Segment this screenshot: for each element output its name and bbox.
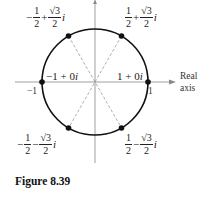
point-marker bbox=[145, 79, 151, 85]
point-marker bbox=[66, 125, 72, 131]
label-point-bottom-left: −12−√32i bbox=[16, 133, 57, 156]
numerator: √3 bbox=[140, 133, 153, 145]
point-marker bbox=[39, 79, 45, 85]
denominator: 2 bbox=[33, 18, 40, 29]
denominator: 2 bbox=[24, 145, 31, 156]
denominator: 2 bbox=[140, 18, 153, 29]
operator: − bbox=[32, 139, 38, 150]
axis-label-axis: axis bbox=[180, 83, 195, 93]
sign: − bbox=[17, 139, 23, 150]
fraction: √32 bbox=[140, 133, 153, 156]
point-marker bbox=[119, 125, 125, 131]
fraction: √32 bbox=[39, 133, 52, 156]
fraction: √32 bbox=[48, 6, 61, 29]
numerator: 1 bbox=[33, 6, 40, 18]
operator: + bbox=[133, 12, 139, 23]
label-point-top-left: −12+√32i bbox=[25, 6, 66, 29]
denominator: 2 bbox=[125, 145, 132, 156]
label-point-bottom-right: 12−√32i bbox=[123, 133, 158, 156]
point-marker bbox=[66, 33, 72, 39]
label-pos-one: 1 + 0i bbox=[117, 71, 143, 82]
fraction: 12 bbox=[33, 6, 40, 29]
imaginary-unit: i bbox=[154, 12, 157, 23]
arrow-right-icon bbox=[169, 80, 176, 85]
imaginary-unit: i bbox=[62, 12, 65, 23]
denominator: 2 bbox=[140, 145, 153, 156]
denominator: 2 bbox=[48, 18, 61, 29]
numerator: 1 bbox=[24, 133, 31, 145]
tick-label-neg-one: −1 bbox=[27, 86, 37, 96]
numerator: √3 bbox=[48, 6, 61, 18]
sign: − bbox=[26, 12, 32, 23]
unit-circle-diagram bbox=[0, 0, 208, 204]
imaginary-unit: i bbox=[140, 70, 143, 82]
arrow-up-icon bbox=[93, 0, 97, 4]
label-neg-one: −1 + 0i bbox=[46, 71, 78, 82]
fraction: 12 bbox=[125, 133, 132, 156]
label-point-top-right: 12+√32i bbox=[123, 6, 158, 29]
numerator: √3 bbox=[39, 133, 52, 145]
numerator: √3 bbox=[140, 6, 153, 18]
label-text: −1 + 0 bbox=[46, 70, 75, 82]
denominator: 2 bbox=[39, 145, 52, 156]
axis-label-real: Real bbox=[180, 71, 197, 81]
label-text: 1 + 0 bbox=[117, 70, 140, 82]
numerator: 1 bbox=[125, 133, 132, 145]
denominator: 2 bbox=[125, 18, 132, 29]
fraction: √32 bbox=[140, 6, 153, 29]
point-marker bbox=[119, 33, 125, 39]
imaginary-unit: i bbox=[154, 139, 157, 150]
numerator: 1 bbox=[125, 6, 132, 18]
fraction: 12 bbox=[24, 133, 31, 156]
figure-caption: Figure 8.39 bbox=[15, 175, 70, 187]
imaginary-unit: i bbox=[53, 139, 56, 150]
operator: − bbox=[133, 139, 139, 150]
fraction: 12 bbox=[125, 6, 132, 29]
operator: + bbox=[41, 12, 47, 23]
imaginary-unit: i bbox=[75, 70, 78, 82]
tick-label-one: 1 bbox=[148, 86, 153, 96]
